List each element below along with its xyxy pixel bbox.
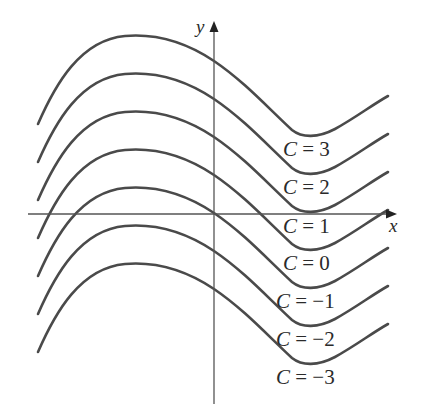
curve-label-cm2: C = −2	[276, 327, 335, 351]
curve-cm3	[38, 264, 388, 364]
x-axis-label: x	[388, 215, 398, 236]
y-axis-label: y	[194, 16, 205, 37]
curve-label-c3: C = 3	[283, 137, 330, 161]
curve-group	[38, 36, 388, 364]
curve-label-cm3: C = −3	[276, 365, 335, 389]
curve-label-cm1: C = −1	[276, 289, 335, 313]
solution-curves-figure: y x C = 3 C = 2 C = 1 C = 0 C = −1 C = −…	[0, 0, 428, 412]
curve-label-c1: C = 1	[283, 214, 330, 238]
y-axis-arrow-icon	[210, 21, 219, 32]
curve-label-c2: C = 2	[283, 175, 330, 199]
curve-label-c0: C = 0	[283, 251, 330, 275]
